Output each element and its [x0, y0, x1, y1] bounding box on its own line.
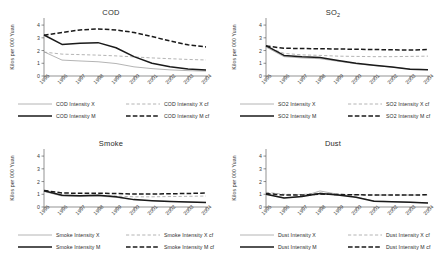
legend-label: COD Intensity M [56, 113, 96, 119]
legend-label: SO2 Intensity X [278, 101, 316, 107]
y-tick-label: 1 [30, 191, 40, 197]
legend-key-swatch [240, 100, 274, 108]
series-line-cod-1 [44, 52, 206, 60]
legend-label: Smoke Intensity M cf [164, 244, 214, 250]
y-tick-label: 1 [252, 191, 262, 197]
legend-label: SO2 Intensity M cf [386, 113, 430, 119]
legend-key-swatch [126, 231, 160, 239]
y-tick-label: 1 [30, 60, 40, 66]
y-tick-label: 2 [30, 48, 40, 54]
legend-item: Dust Intensity M [240, 242, 317, 252]
legend-label: Dust Intensity X cf [386, 232, 430, 238]
legend-item: COD Intensity M [18, 111, 96, 121]
y-tick-label: 0 [252, 204, 262, 210]
legend-key-swatch [126, 243, 160, 251]
legend-item: COD Intensity X [18, 99, 95, 109]
legend-label: SO2 Intensity X cf [386, 101, 429, 107]
y-tick-label: 0 [30, 73, 40, 79]
chart-panel-cod: CODKilos per 000 Yuan0123419951996199719… [0, 0, 222, 131]
y-tick-label: 4 [30, 22, 40, 28]
y-tick-label: 4 [30, 153, 40, 159]
legend-item: Smoke Intensity M cf [126, 242, 214, 252]
legend-smoke: Smoke Intensity XSmoke Intensity X cfSmo… [18, 230, 222, 258]
legend-key-swatch [348, 100, 382, 108]
y-tick-label: 0 [252, 73, 262, 79]
legend-dust: Dust Intensity XDust Intensity X cfDust … [240, 230, 444, 258]
legend-item: SO2 Intensity M cf [348, 111, 430, 121]
legend-key-swatch [348, 243, 382, 251]
y-tick-label: 2 [252, 179, 262, 185]
y-tick-label: 4 [252, 153, 262, 159]
legend-key-swatch [18, 112, 52, 120]
legend-key-swatch [240, 243, 274, 251]
y-tick-label: 2 [30, 179, 40, 185]
legend-item: Dust Intensity X [240, 230, 316, 240]
chart-panel-smoke: SmokeKilos per 000 Yuan01234199519961997… [0, 131, 222, 262]
legend-label: Smoke Intensity M [56, 244, 100, 250]
legend-label: Dust Intensity X [278, 232, 316, 238]
y-tick-label: 3 [30, 35, 40, 41]
legend-cod: COD Intensity XCOD Intensity X cfCOD Int… [18, 99, 222, 127]
legend-item: Smoke Intensity X cf [126, 230, 213, 240]
pollution-intensity-figure: CODKilos per 000 Yuan0123419951996199719… [0, 0, 444, 262]
legend-key-swatch [18, 243, 52, 251]
chart-panel-so2: SO2Kilos per 000 Yuan0123419951996199719… [222, 0, 444, 131]
legend-key-swatch [18, 231, 52, 239]
legend-label: COD Intensity M cf [164, 113, 209, 119]
legend-item: Dust Intensity M cf [348, 242, 431, 252]
legend-label: Smoke Intensity X cf [164, 232, 213, 238]
legend-key-swatch [240, 112, 274, 120]
y-tick-label: 0 [30, 204, 40, 210]
legend-item: SO2 Intensity X [240, 99, 316, 109]
series-line-so2-3 [266, 46, 428, 50]
legend-item: SO2 Intensity X cf [348, 99, 429, 109]
legend-item: SO2 Intensity M [240, 111, 316, 121]
legend-item: Dust Intensity X cf [348, 230, 430, 240]
y-tick-label: 4 [252, 22, 262, 28]
y-tick-label: 2 [252, 48, 262, 54]
legend-item: COD Intensity X cf [126, 99, 208, 109]
y-tick-label: 1 [252, 60, 262, 66]
legend-key-swatch [18, 100, 52, 108]
legend-key-swatch [348, 112, 382, 120]
legend-label: Dust Intensity M cf [386, 244, 431, 250]
legend-item: Smoke Intensity M [18, 242, 100, 252]
chart-panel-dust: DustKilos per 000 Yuan012341995199619971… [222, 131, 444, 262]
y-tick-label: 3 [252, 166, 262, 172]
legend-label: Dust Intensity M [278, 244, 317, 250]
legend-item: Smoke Intensity X [18, 230, 100, 240]
legend-label: COD Intensity X [56, 101, 95, 107]
legend-label: Smoke Intensity X [56, 232, 100, 238]
legend-key-swatch [126, 112, 160, 120]
legend-item: COD Intensity M cf [126, 111, 209, 121]
legend-label: COD Intensity X cf [164, 101, 208, 107]
series-line-smoke-3 [44, 190, 206, 194]
series-line-cod-2 [44, 35, 206, 70]
legend-so2: SO2 Intensity XSO2 Intensity X cfSO2 Int… [240, 99, 444, 127]
legend-label: SO2 Intensity M [278, 113, 316, 119]
y-tick-label: 3 [30, 166, 40, 172]
legend-key-swatch [348, 231, 382, 239]
y-tick-label: 3 [252, 35, 262, 41]
legend-key-swatch [126, 100, 160, 108]
legend-key-swatch [240, 231, 274, 239]
